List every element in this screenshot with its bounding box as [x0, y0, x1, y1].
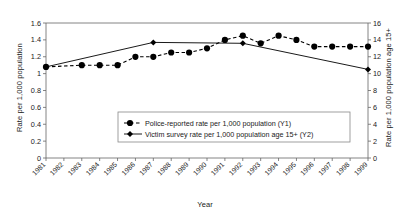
x-tick-label: 1994: [263, 161, 279, 177]
y1-tick-label: 0.2: [31, 137, 41, 146]
series-marker-1: [115, 62, 121, 68]
y2-tick-label: 12: [373, 52, 381, 61]
chart-plot: 00.20.40.60.811.21.41.602468101214161981…: [0, 0, 410, 220]
y1-tick-label: 1.2: [31, 52, 41, 61]
series-marker-1: [132, 54, 138, 60]
series-marker-1: [365, 44, 371, 50]
series-marker-2: [150, 39, 156, 45]
series-marker-1: [97, 62, 103, 68]
x-tick-label: 1996: [299, 161, 315, 177]
y1-tick-label: 1: [37, 69, 41, 78]
legend-marker-1: [127, 120, 133, 126]
x-tick-label: 1992: [228, 161, 244, 177]
x-tick-label: 1986: [120, 161, 136, 177]
x-tick-label: 1984: [84, 161, 100, 177]
y2-tick-label: 4: [373, 120, 377, 129]
x-tick-label: 1998: [335, 161, 351, 177]
x-tick-label: 1993: [245, 161, 261, 177]
x-tick-label: 1983: [67, 161, 83, 177]
y1-tick-label: 1.6: [31, 19, 41, 28]
chart-container: Rate per 1,000 population Rate per 1,000…: [0, 0, 410, 220]
series-marker-1: [329, 44, 335, 50]
x-tick-label: 1999: [353, 161, 369, 177]
y1-tick-label: 1.4: [31, 35, 41, 44]
y1-tick-label: 0.4: [31, 120, 41, 129]
y2-tick-label: 14: [373, 35, 381, 44]
x-tick-label: 1987: [138, 161, 154, 177]
x-tick-label: 1989: [174, 161, 190, 177]
series-marker-1: [222, 37, 228, 43]
series-marker-1: [276, 33, 282, 39]
y2-tick-label: 0: [373, 154, 377, 163]
series-marker-1: [311, 44, 317, 50]
x-tick-label: 1990: [192, 161, 208, 177]
series-marker-1: [258, 40, 264, 46]
y1-tick-label: 0.8: [31, 86, 41, 95]
x-tick-label: 1981: [31, 161, 47, 177]
series-marker-1: [168, 49, 174, 55]
x-tick-label: 1997: [317, 161, 333, 177]
series-marker-1: [204, 45, 210, 51]
series-marker-1: [150, 54, 156, 60]
legend-label-1: Police-reported rate per 1,000 populatio…: [145, 119, 291, 128]
series-marker-2: [365, 66, 371, 72]
series-marker-1: [293, 37, 299, 43]
x-tick-label: 1995: [281, 161, 297, 177]
y2-tick-label: 2: [373, 137, 377, 146]
legend-label-2: Victim survey rate per 1,000 population …: [145, 130, 313, 139]
series-marker-1: [240, 33, 246, 39]
series-marker-2: [240, 40, 246, 46]
x-tick-label: 1985: [102, 161, 118, 177]
x-tick-label: 1982: [49, 161, 65, 177]
y2-tick-label: 6: [373, 103, 377, 112]
y2-tick-label: 10: [373, 69, 381, 78]
series-marker-1: [347, 44, 353, 50]
y1-tick-label: 0.6: [31, 103, 41, 112]
series-marker-1: [79, 62, 85, 68]
y2-tick-label: 8: [373, 86, 377, 95]
x-tick-label: 1991: [210, 161, 226, 177]
y2-tick-label: 16: [373, 19, 381, 28]
x-tick-label: 1988: [156, 161, 172, 177]
series-marker-1: [186, 49, 192, 55]
